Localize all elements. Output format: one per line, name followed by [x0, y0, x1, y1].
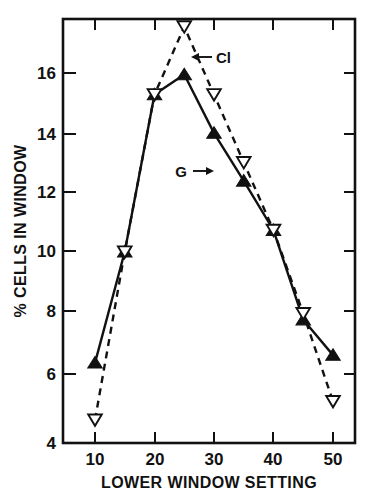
y-tick-label: 14 [37, 125, 56, 144]
y-tick-label: 4 [47, 434, 57, 453]
x-tick-label: 40 [264, 450, 283, 469]
annotation-cl: Cl [191, 49, 231, 66]
y-tick-labels: 16 14 12 10 8 6 4 [37, 64, 56, 453]
arrow-right-icon [206, 167, 214, 175]
data-point-cl-25 [177, 21, 191, 32]
x-axis-ticks-top [95, 19, 333, 30]
x-axis-ticks [95, 432, 333, 443]
y-axis-title: % CELLS IN WINDOW [12, 144, 29, 318]
y-axis-ticks [63, 73, 76, 374]
y-axis-ticks-right [344, 73, 355, 374]
series-g [88, 68, 340, 368]
annotation-label-cl: Cl [216, 49, 231, 66]
data-point-cl-50 [326, 396, 340, 407]
x-tick-labels: 10 20 30 40 50 [86, 450, 343, 469]
annotation-label-g: G [175, 163, 187, 180]
data-point-cl-30 [207, 89, 221, 100]
x-tick-label: 50 [324, 450, 343, 469]
data-point-g-10 [88, 356, 102, 368]
data-point-cl-10 [88, 414, 102, 425]
series-cl [88, 21, 340, 426]
data-point-cl-45 [296, 308, 310, 319]
y-tick-label: 6 [47, 365, 56, 384]
y-tick-label: 16 [37, 64, 56, 83]
data-point-cl-35 [237, 157, 251, 168]
x-tick-label: 20 [146, 450, 165, 469]
x-tick-label: 30 [205, 450, 224, 469]
y-tick-label: 10 [37, 242, 56, 261]
data-point-g-25 [177, 68, 191, 80]
arrow-left-icon [191, 53, 199, 61]
series-layer [88, 21, 340, 426]
y-tick-label: 8 [47, 302, 56, 321]
x-tick-label: 10 [86, 450, 105, 469]
annotation-g: G [175, 163, 214, 180]
data-point-g-30 [207, 127, 221, 139]
chart-figure: 16 14 12 10 8 6 4 10 20 30 40 50 LOWER W… [0, 0, 367, 496]
y-tick-label: 12 [37, 183, 56, 202]
x-axis-title: LOWER WINDOW SETTING [101, 474, 317, 491]
